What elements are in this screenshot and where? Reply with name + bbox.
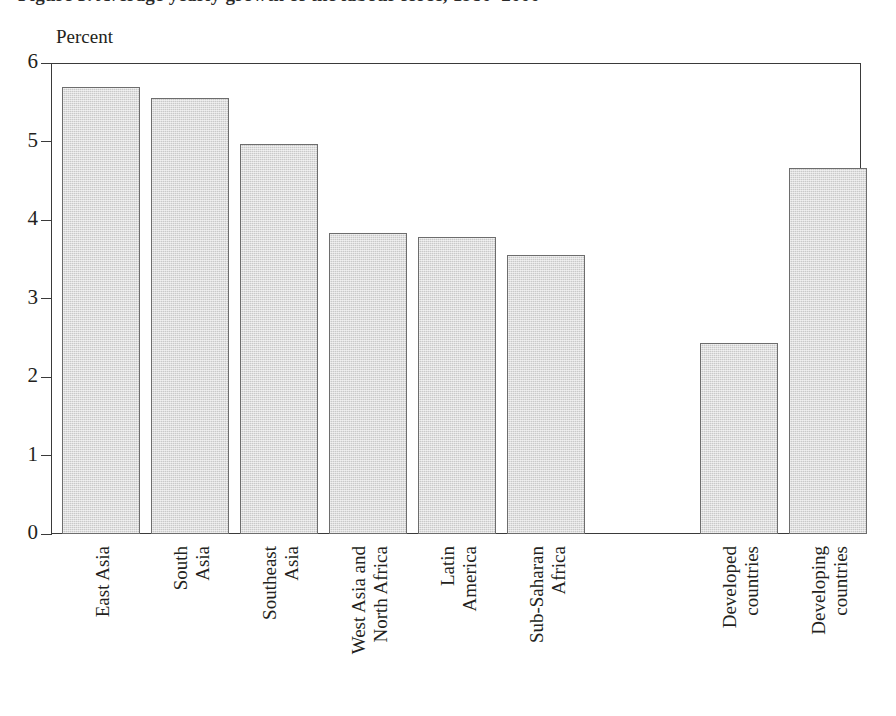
y-axis-tick [41,220,52,221]
bar [329,233,407,534]
y-axis-tick [41,455,52,456]
y-axis-tick-label: 4 [4,208,38,229]
y-axis-tick [41,63,52,64]
bar [240,144,318,534]
bar [151,98,229,534]
y-axis-tick-label: 6 [4,51,38,72]
y-axis-tick-label: 2 [4,365,38,386]
y-axis-tick [41,141,52,142]
y-axis-tick [41,534,52,535]
bar [789,168,867,534]
x-axis-category-label: countries [831,546,896,616]
figure-container: Figure 5. Average yearly growth of the l… [0,0,896,716]
bar [418,237,496,534]
bar [700,343,778,534]
bar [62,87,140,534]
y-axis-tick [41,377,52,378]
y-axis-tick [41,298,52,299]
y-axis-tick-label: 3 [4,287,38,308]
y-axis-tick-label: 5 [4,130,38,151]
y-axis-title: Percent [56,27,113,46]
y-axis-tick-label: 1 [4,444,38,465]
figure-caption-clipped: Figure 5. Average yearly growth of the l… [0,0,896,12]
x-axis-category-label: Africa [549,546,719,595]
y-axis-tick-label: 0 [4,522,38,543]
bar [507,255,585,534]
figure-caption-text: Figure 5. Average yearly growth of the l… [18,0,540,6]
